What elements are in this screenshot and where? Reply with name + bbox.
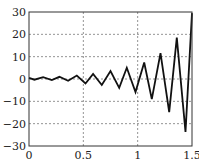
y-tick-label: −20	[3, 118, 26, 131]
y-tick-label: 0	[19, 73, 26, 86]
x-tick-label: 1	[134, 149, 141, 162]
data-series-line	[29, 13, 192, 132]
y-tick-label: 30	[12, 6, 26, 19]
line-chart: 3020100−10−20−30 00.511.5	[0, 0, 199, 167]
y-tick-label: 20	[12, 28, 26, 41]
y-tick-label: −30	[3, 140, 26, 153]
x-tick-label: 0.5	[75, 149, 93, 162]
y-tick-label: −10	[3, 95, 26, 108]
y-tick-label: 10	[12, 51, 26, 64]
x-tick-label: 1.5	[183, 149, 199, 162]
x-tick-label: 0	[26, 149, 33, 162]
y-axis-ticks: 3020100−10−20−30	[3, 6, 26, 153]
x-axis-ticks: 00.511.5	[26, 149, 200, 162]
